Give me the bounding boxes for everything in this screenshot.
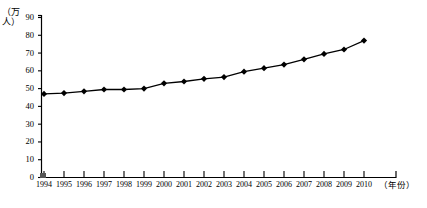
data-point-marker bbox=[161, 80, 167, 86]
line-chart: （万人） 0102030405060708090 199419951996199… bbox=[0, 0, 427, 208]
y-tick-label: 50 bbox=[16, 84, 34, 93]
data-point-marker bbox=[281, 62, 287, 68]
y-tick-label: 10 bbox=[16, 155, 34, 164]
y-tick-label: 20 bbox=[16, 137, 34, 146]
y-tick-label: 70 bbox=[16, 49, 34, 58]
data-point-marker bbox=[181, 78, 187, 84]
x-tick-label: 2010 bbox=[351, 181, 377, 189]
origin-marker bbox=[40, 173, 46, 178]
data-point-marker bbox=[121, 86, 127, 92]
data-point-marker bbox=[321, 51, 327, 57]
y-tick-label: 80 bbox=[16, 31, 34, 40]
data-point-marker bbox=[341, 46, 347, 52]
y-tick-label: 40 bbox=[16, 102, 34, 111]
data-point-marker bbox=[201, 76, 207, 82]
data-line bbox=[44, 41, 364, 94]
plot-area bbox=[0, 0, 427, 208]
y-tick-label: 90 bbox=[16, 13, 34, 22]
data-point-marker bbox=[141, 86, 147, 92]
data-markers bbox=[41, 38, 367, 98]
y-tick-label: 30 bbox=[16, 120, 34, 129]
data-point-marker bbox=[361, 38, 367, 44]
data-point-marker bbox=[221, 74, 227, 80]
data-point-marker bbox=[241, 69, 247, 75]
data-point-marker bbox=[101, 86, 107, 92]
data-point-marker bbox=[261, 65, 267, 71]
x-axis-title: （年份） bbox=[379, 181, 415, 190]
axes bbox=[38, 15, 396, 178]
data-point-marker bbox=[61, 90, 67, 96]
y-tick-label: 60 bbox=[16, 66, 34, 75]
data-point-marker bbox=[301, 56, 307, 62]
data-point-marker bbox=[81, 88, 87, 94]
x-tick-marks bbox=[44, 171, 364, 178]
